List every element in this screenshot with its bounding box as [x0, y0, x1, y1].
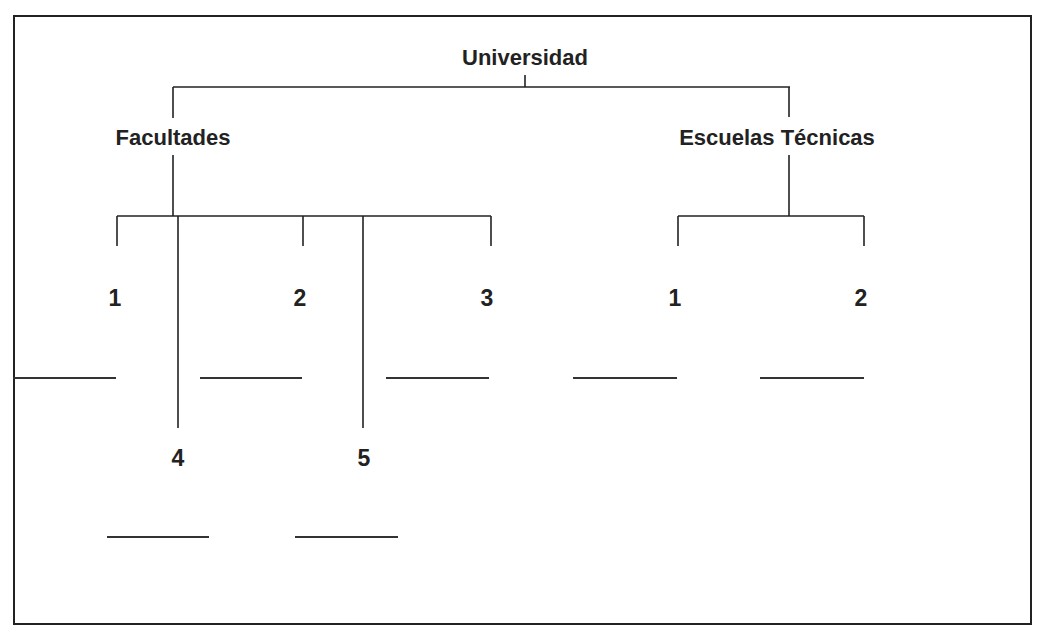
facultad-number-1: 1 [109, 287, 122, 310]
answer-blanks [0, 0, 1041, 638]
escuela-number-1: 1 [669, 287, 682, 310]
facultad-number-5: 5 [358, 447, 371, 470]
branch-label-facultades: Facultades [116, 127, 231, 149]
facultad-number-2: 2 [294, 287, 307, 310]
facultad-number-3: 3 [481, 287, 494, 310]
branch-label-escuelas: Escuelas Técnicas [679, 127, 875, 149]
facultad-number-4: 4 [172, 447, 185, 470]
escuela-number-2: 2 [855, 287, 868, 310]
root-label: Universidad [462, 47, 588, 69]
